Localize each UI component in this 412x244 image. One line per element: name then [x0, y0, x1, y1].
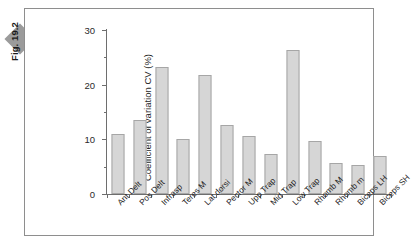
bar-slot [129, 30, 151, 194]
bar-slot [325, 30, 347, 194]
bar-series [107, 30, 391, 194]
bar-slot [304, 30, 326, 194]
bar-slot [347, 30, 369, 194]
figure-number-label: Fig. 19.2 [9, 14, 20, 70]
y-tick-label: 10 [84, 134, 95, 145]
bar-slot [260, 30, 282, 194]
bar-slot [194, 30, 216, 194]
bar [286, 50, 299, 194]
bar-slot [173, 30, 195, 194]
y-tick-label: 30 [84, 25, 95, 36]
y-tick-label: 20 [84, 79, 95, 90]
bar-slot [369, 30, 391, 194]
bar [155, 67, 168, 194]
bar-slot [282, 30, 304, 194]
bar [199, 75, 212, 194]
figure-frame: Coefficient of variation CV (%) 0102030 … [24, 8, 374, 236]
bar [111, 134, 124, 194]
bar-slot [238, 30, 260, 194]
plot-area: 0102030 [107, 30, 391, 194]
y-tick-label: 0 [90, 189, 95, 200]
x-tick [107, 194, 108, 198]
bar-slot [107, 30, 129, 194]
bar-slot [216, 30, 238, 194]
bar-slot [151, 30, 173, 194]
